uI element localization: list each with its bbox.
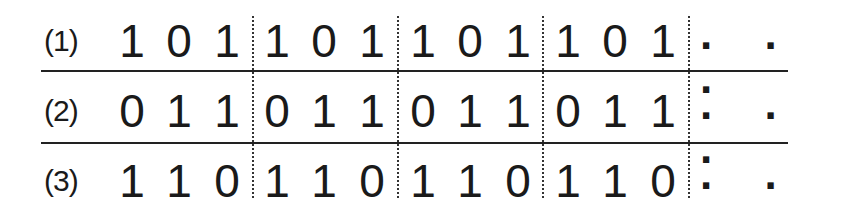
- bit-digit: 1: [164, 158, 194, 204]
- bit-digit: 1: [455, 88, 485, 134]
- bit-digit: 0: [553, 88, 583, 134]
- bit-digit: 1: [503, 18, 533, 64]
- sequence-row-1: (1)101101101101. . .: [0, 14, 856, 74]
- bit-digit: 1: [408, 18, 438, 64]
- bit-digit: 0: [357, 158, 387, 204]
- period-separator-3: [542, 16, 544, 198]
- period-separator-4: [688, 16, 690, 198]
- period-separator-2: [397, 16, 399, 198]
- bit-digit: 1: [553, 158, 583, 204]
- row-divider-1: [41, 70, 788, 72]
- bit-digit: 1: [408, 158, 438, 204]
- row-divider-2: [41, 142, 788, 144]
- bit-digit: 0: [212, 158, 242, 204]
- bit-digit: 0: [503, 158, 533, 204]
- bit-digit: 1: [648, 18, 678, 64]
- bit-digit: 1: [212, 18, 242, 64]
- bit-digit: 0: [309, 18, 339, 64]
- row-label: (1): [44, 24, 78, 58]
- bit-digit: 1: [309, 88, 339, 134]
- bit-digit: 1: [503, 88, 533, 134]
- period-separator-1: [252, 16, 254, 198]
- bit-digit: 1: [600, 158, 630, 204]
- bit-digit: 1: [262, 18, 292, 64]
- bit-digit: 0: [648, 158, 678, 204]
- bit-digit: 1: [164, 88, 194, 134]
- bit-digit: 1: [117, 18, 147, 64]
- bit-digit: 1: [553, 18, 583, 64]
- bit-digit: 1: [600, 88, 630, 134]
- bit-digit: 1: [309, 158, 339, 204]
- bit-digit: 0: [164, 18, 194, 64]
- row-label: (2): [44, 94, 78, 128]
- sequence-row-2: (2)011011011011. . .: [0, 84, 856, 144]
- bit-digit: 1: [212, 88, 242, 134]
- ellipsis: . . .: [700, 152, 856, 212]
- bit-digit: 1: [357, 88, 387, 134]
- bit-digit: 0: [600, 18, 630, 64]
- bit-digit: 0: [117, 88, 147, 134]
- bit-digit: 1: [262, 158, 292, 204]
- bit-digit: 0: [262, 88, 292, 134]
- bit-digit: 1: [117, 158, 147, 204]
- bit-digit: 0: [408, 88, 438, 134]
- bit-digit: 1: [455, 158, 485, 204]
- bit-digit: 0: [455, 18, 485, 64]
- bit-digit: 1: [357, 18, 387, 64]
- bit-digit: 1: [648, 88, 678, 134]
- sequence-row-3: (3)110110110110. . .: [0, 154, 856, 212]
- row-label: (3): [44, 164, 78, 198]
